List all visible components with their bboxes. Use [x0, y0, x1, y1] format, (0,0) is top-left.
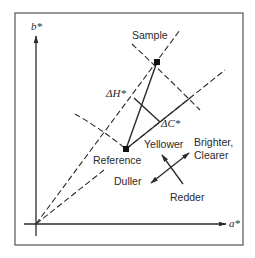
reference-point — [123, 146, 129, 152]
yellower-label: Yellower — [144, 138, 184, 150]
reference-label: Reference — [93, 154, 142, 166]
reference-chroma-arc — [75, 114, 126, 149]
clearer-label: Clearer — [194, 149, 229, 161]
b-axis-label: b* — [31, 20, 43, 32]
delta-h-segment — [134, 98, 160, 122]
brighter-label: Brighter, — [194, 136, 233, 148]
cielab-color-difference-diagram: b* a* Sample Reference ΔH* ΔC* Yellower … — [0, 0, 255, 258]
a-axis-label: a* — [229, 217, 241, 229]
delta-c-label: ΔC* — [160, 117, 181, 129]
duller-label: Duller — [114, 175, 142, 187]
delta-h-label: ΔH* — [105, 87, 126, 99]
diagram-frame — [15, 13, 243, 245]
sample-chroma-arc — [132, 44, 200, 110]
bright-dull-arrow — [151, 153, 189, 183]
sample-point — [154, 59, 160, 65]
sample-label: Sample — [132, 29, 168, 41]
yellow-red-arrow — [162, 155, 183, 184]
redder-label: Redder — [170, 191, 205, 203]
